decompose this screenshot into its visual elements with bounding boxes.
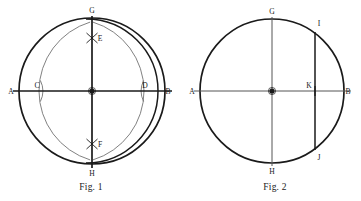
fig2-label-b: B — [345, 87, 350, 96]
fig1-label-e: E — [98, 34, 103, 43]
geometry-canvas: A B C D E F G H A — [0, 0, 361, 201]
fig1-label-c: C — [34, 81, 39, 90]
fig1-label-h: H — [89, 169, 95, 178]
fig2-label-k: K — [306, 81, 312, 90]
fig2-label-a: A — [189, 87, 195, 96]
fig2-center-point — [269, 88, 274, 93]
figure-1-group: A B C D E F G H — [8, 6, 172, 178]
fig1-label-d: D — [142, 81, 148, 90]
fig2-label-i: I — [318, 19, 321, 28]
figure-1-caption: Fig. 1 — [62, 182, 120, 192]
fig1-label-f: F — [98, 140, 102, 149]
fig1-label-a: A — [8, 87, 14, 96]
fig2-label-h: H — [269, 167, 275, 176]
fig2-label-j: J — [318, 153, 321, 162]
fig2-label-g: G — [269, 7, 275, 16]
fig1-label-b: B — [165, 87, 170, 96]
figure-2-caption: Fig. 2 — [246, 182, 304, 192]
fig1-label-g: G — [89, 6, 95, 15]
figure-board: A B C D E F G H A — [0, 0, 361, 201]
fig1-center-point — [89, 88, 94, 93]
